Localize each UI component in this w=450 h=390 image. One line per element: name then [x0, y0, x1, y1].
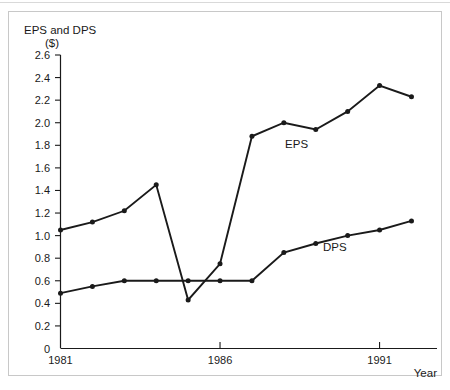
- series-line-dps: [61, 221, 412, 293]
- y-tick-label-2.6: 2.6: [35, 49, 50, 61]
- y-axis-title-line2: ($): [45, 37, 59, 49]
- data-point-eps-1991: [377, 83, 382, 88]
- data-point-dps-1992: [409, 218, 414, 223]
- y-axis-tick-labels: 00.20.40.60.81.01.21.41.61.82.02.22.42.6: [35, 49, 50, 355]
- y-tick-label-2.2: 2.2: [35, 94, 50, 106]
- x-tick-label-1981: 1981: [48, 354, 72, 366]
- x-axis-ticks: [220, 342, 380, 349]
- data-point-eps-1986: [218, 261, 223, 266]
- data-point-dps-1991: [377, 227, 382, 232]
- y-tick-label-1.2: 1.2: [35, 207, 50, 219]
- data-point-eps-1981: [58, 227, 63, 232]
- y-tick-label-1.0: 1.0: [35, 230, 50, 242]
- data-point-eps-1988: [281, 120, 286, 125]
- y-tick-label-1.6: 1.6: [35, 162, 50, 174]
- y-tick-label-0.2: 0.2: [35, 320, 50, 332]
- data-point-dps-1988: [281, 250, 286, 255]
- data-point-eps-1983: [122, 208, 127, 213]
- data-point-dps-1990: [345, 233, 350, 238]
- y-tick-label-0.8: 0.8: [35, 252, 50, 264]
- data-point-dps-1989: [313, 241, 318, 246]
- y-tick-label-1.8: 1.8: [35, 139, 50, 151]
- data-point-eps-1992: [409, 94, 414, 99]
- data-point-dps-1984: [154, 278, 159, 283]
- data-point-eps-1987: [249, 134, 254, 139]
- series-annotations: EPSDPS: [285, 138, 347, 254]
- data-point-dps-1987: [249, 278, 254, 283]
- y-tick-label-1.4: 1.4: [35, 184, 50, 196]
- y-axis-title-line1: EPS and DPS: [24, 24, 97, 36]
- chart-page: EPS and DPS ($) 00.20.40.60.81.01.21.41.…: [0, 0, 450, 390]
- x-axis-title: Year: [414, 367, 437, 379]
- series-label-dps: DPS: [323, 241, 347, 253]
- x-axis-tick-labels: 198119861991: [48, 354, 392, 366]
- y-tick-label-0: 0: [44, 343, 50, 355]
- y-tick-label-2.4: 2.4: [35, 72, 50, 84]
- data-series-group: [61, 85, 412, 299]
- data-point-eps-1989: [313, 127, 318, 132]
- data-point-dps-1983: [122, 278, 127, 283]
- series-label-eps: EPS: [285, 138, 308, 150]
- data-point-eps-1985: [186, 297, 191, 302]
- data-point-eps-1984: [154, 182, 159, 187]
- data-point-dps-1985: [186, 278, 191, 283]
- series-line-eps: [61, 85, 412, 299]
- x-tick-label-1986: 1986: [208, 354, 232, 366]
- y-tick-label-2.0: 2.0: [35, 117, 50, 129]
- axis-lines: [61, 55, 438, 349]
- data-markers-group: [58, 83, 414, 302]
- data-point-dps-1981: [58, 291, 63, 296]
- y-tick-label-0.4: 0.4: [35, 297, 50, 309]
- data-point-eps-1990: [345, 109, 350, 114]
- line-chart: EPS and DPS ($) 00.20.40.60.81.01.21.41.…: [0, 0, 450, 390]
- x-tick-label-1991: 1991: [367, 354, 391, 366]
- y-tick-label-0.6: 0.6: [35, 275, 50, 287]
- y-axis-ticks: [55, 55, 61, 326]
- data-point-dps-1982: [90, 284, 95, 289]
- data-point-dps-1986: [218, 278, 223, 283]
- data-point-eps-1982: [90, 220, 95, 225]
